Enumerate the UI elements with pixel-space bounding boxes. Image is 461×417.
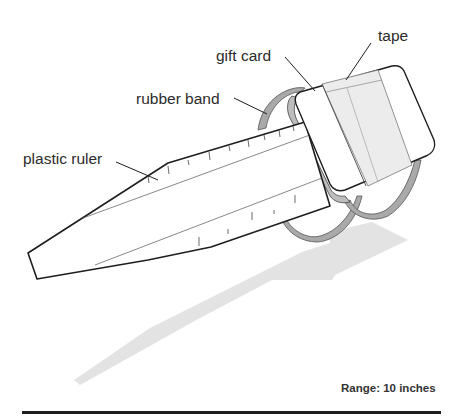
label-rubber-band: rubber band (136, 91, 220, 107)
label-gift-card: gift card (216, 48, 271, 64)
range-caption: Range: 10 inches (341, 383, 436, 395)
plastic-ruler (28, 122, 330, 279)
label-tape: tape (378, 28, 408, 44)
label-plastic-ruler: plastic ruler (23, 151, 102, 167)
bottom-divider (22, 411, 441, 414)
